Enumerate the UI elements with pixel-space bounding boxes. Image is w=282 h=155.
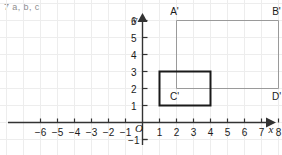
x-tick-label: 5 <box>225 127 231 138</box>
x-tick-label: 2 <box>174 127 180 138</box>
x-tick-label: 4 <box>208 127 214 138</box>
x-tick-label: −4 <box>69 127 81 138</box>
vertex-label: A' <box>170 6 179 17</box>
y-tick-label: 4 <box>131 50 137 61</box>
y-axis-title: y <box>132 13 138 25</box>
vertex-label: C' <box>170 91 179 102</box>
x-tick-label: 3 <box>191 127 197 138</box>
vertex-labels: A'B'C'D' <box>170 6 281 102</box>
y-tick-label-negative-one: −1 <box>128 135 140 146</box>
x-axis-title: x <box>268 123 274 135</box>
y-tick-label: 3 <box>131 67 137 78</box>
x-tick-label: 7 <box>259 127 265 138</box>
x-tick-label: −3 <box>86 127 98 138</box>
coordinate-plane: −6−5−4−3−2−112345678123456−1 A'B'C'D' x … <box>0 0 282 155</box>
x-tick-label: 6 <box>242 127 248 138</box>
origin-label: O <box>135 122 143 134</box>
x-tick-label: 8 <box>276 127 282 138</box>
vertex-label: D' <box>272 91 281 102</box>
worksheet-figure: 7 a, b, c −6−5−4−3−2−112345678123456−1 A… <box>0 0 282 155</box>
y-tick-label: 1 <box>131 101 137 112</box>
y-tick-label: 2 <box>131 84 137 95</box>
x-tick-label: 1 <box>157 127 163 138</box>
x-tick-label: −6 <box>35 127 47 138</box>
vertex-label: B' <box>272 6 281 17</box>
x-tick-label: −5 <box>52 127 64 138</box>
x-tick-label: −2 <box>103 127 115 138</box>
y-tick-label: 5 <box>131 33 137 44</box>
